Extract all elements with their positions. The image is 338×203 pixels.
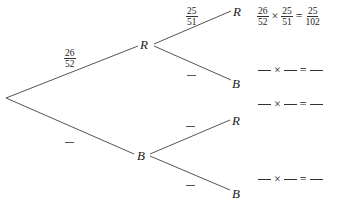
blank xyxy=(258,70,271,71)
node-black-red: R xyxy=(232,114,240,127)
node-red-black: B xyxy=(232,77,240,90)
blank xyxy=(310,70,323,71)
outcome-red-black: × = xyxy=(258,63,323,78)
outcome-result: 25 102 xyxy=(306,6,320,27)
prob-first-red: 26 52 xyxy=(64,48,76,69)
blank xyxy=(258,104,271,105)
prob-black-black-blank xyxy=(186,185,195,186)
blank xyxy=(258,179,271,180)
blank xyxy=(310,179,323,180)
prob-red-black-blank xyxy=(187,75,196,76)
blank xyxy=(284,179,297,180)
probability-tree-diagram: R B R B R B 26 52 25 51 26 52 × 25 51 = … xyxy=(0,0,338,203)
blank xyxy=(284,104,297,105)
prob-first-black-blank xyxy=(65,142,74,143)
node-black-black: B xyxy=(232,187,240,200)
prob-red-red: 25 51 xyxy=(186,6,198,27)
outcome-black-red: × = xyxy=(258,97,323,112)
node-first-black: B xyxy=(137,149,145,162)
node-first-red: R xyxy=(140,38,148,51)
outcome-frac-2: 25 51 xyxy=(281,6,293,27)
prob-black-red-blank xyxy=(186,126,195,127)
outcome-frac-1: 26 52 xyxy=(257,6,269,27)
outcome-red-red: 26 52 × 25 51 = 25 102 xyxy=(257,6,320,27)
blank xyxy=(284,70,297,71)
node-red-red: R xyxy=(233,5,241,18)
outcome-black-black: × = xyxy=(258,172,323,187)
blank xyxy=(310,104,323,105)
branch-root-black xyxy=(6,98,134,154)
